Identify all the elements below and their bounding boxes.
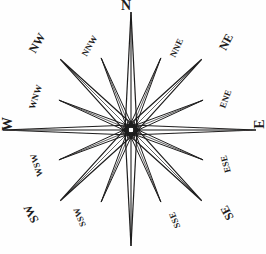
compass-label-n: N	[121, 0, 131, 13]
compass-ray-spine-ssw	[101, 138, 127, 202]
compass-ray-spine-wnw	[59, 100, 123, 126]
compass-ray-spine-ene	[139, 100, 203, 126]
compass-label-e: E	[253, 119, 266, 128]
compass-label-w: W	[1, 117, 15, 131]
compass-ray-spine-wsw	[59, 133, 123, 159]
compass-ray-spine-nne	[134, 58, 160, 122]
compass-ray-spine-nnw	[101, 58, 127, 122]
compass-rose-figure: NNNENEENEEESESESSESSWSWWSWWWNWNWNNW	[0, 0, 266, 254]
compass-ray-spine-sse	[134, 138, 160, 202]
compass-ray-spine-ese	[139, 133, 203, 159]
